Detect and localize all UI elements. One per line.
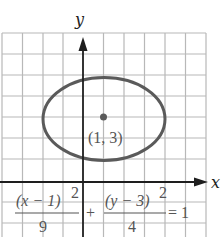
term1-denominator: 9: [39, 218, 47, 235]
term2-denominator: 4: [128, 218, 136, 235]
ellipse-graph: x y (1, 3) (x − 1) 2 9 + (y − 3) 2 4 = 1: [0, 0, 224, 237]
term2-exponent: 2: [159, 184, 167, 201]
center-point: [100, 114, 107, 121]
center-point-label: (1, 3): [88, 129, 123, 147]
term1-numerator: (x − 1): [16, 192, 61, 210]
ellipse-equation: (x − 1) 2 9 + (y − 3) 2 4 = 1: [15, 184, 189, 235]
term1-exponent: 2: [71, 184, 79, 201]
y-axis-label: y: [74, 10, 85, 29]
equals-one: = 1: [168, 204, 189, 221]
y-axis-arrow-icon: [79, 37, 88, 51]
x-axis-label: x: [211, 173, 220, 192]
term2-numerator: (y − 3): [105, 192, 150, 210]
plus-sign: +: [86, 204, 95, 221]
